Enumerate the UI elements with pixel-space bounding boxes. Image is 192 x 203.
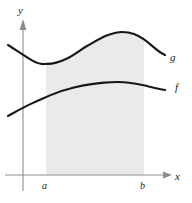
x-axis-arrowhead xyxy=(163,172,172,179)
curve-label-f: f xyxy=(175,82,178,93)
figure-canvas xyxy=(0,0,192,203)
y-axis-arrowhead xyxy=(20,19,27,30)
curve-label-g: g xyxy=(170,52,176,63)
x-axis-label: x xyxy=(175,171,180,182)
upper-limit-label-b: b xyxy=(140,181,145,191)
y-axis-label: y xyxy=(18,5,23,16)
lower-limit-label-a: a xyxy=(42,181,47,191)
shaded-region xyxy=(46,32,144,175)
figure-region-between-curves: y x a b g f xyxy=(0,0,192,203)
